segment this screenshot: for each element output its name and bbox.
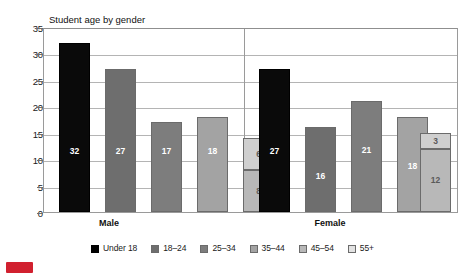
bar-value-female-under-18: 27 xyxy=(260,147,289,156)
legend-item-under-18[interactable]: Under 18 xyxy=(91,244,137,253)
y-axis: 35 30 25 20 15 10 5 0 xyxy=(0,0,43,271)
bar-female-45-54[interactable]: 12 xyxy=(420,149,451,212)
legend-swatch-icon xyxy=(348,245,356,253)
legend-item-45-54[interactable]: 45–54 xyxy=(299,244,334,253)
legend-swatch-icon xyxy=(200,245,208,253)
bar-value-male-18-24: 27 xyxy=(106,147,135,156)
legend-swatch-icon xyxy=(299,245,307,253)
bar-value-male-under-18: 32 xyxy=(60,147,89,156)
bar-value-female-25-34: 21 xyxy=(352,146,381,155)
bar-male-25-34[interactable]: 17 xyxy=(151,122,182,212)
bar-male-under-18[interactable]: 32 xyxy=(59,43,90,212)
bar-male-18-24[interactable]: 27 xyxy=(105,69,136,212)
bar-female-18-24[interactable]: 16 xyxy=(305,127,336,212)
legend-label: 18–24 xyxy=(163,244,186,253)
y-tick-mark xyxy=(37,213,43,214)
chart-legend: Under 18 18–24 25–34 35–44 45–54 55+ xyxy=(0,244,465,253)
legend-item-35-44[interactable]: 35–44 xyxy=(250,244,285,253)
bar-value-female-45-54: 12 xyxy=(421,176,450,185)
legend-label: 25–34 xyxy=(212,244,235,253)
legend-label: 45–54 xyxy=(311,244,334,253)
chart-title: Student age by gender xyxy=(49,14,145,25)
bar-value-female-55-plus: 3 xyxy=(421,137,450,146)
bar-female-25-34[interactable]: 21 xyxy=(351,101,382,212)
legend-swatch-icon xyxy=(250,245,258,253)
bar-female-under-18[interactable]: 27 xyxy=(259,69,290,212)
footer-badge xyxy=(6,262,33,273)
bar-value-male-35-44: 18 xyxy=(198,147,227,156)
legend-item-25-34[interactable]: 25–34 xyxy=(200,244,235,253)
bar-value-female-18-24: 16 xyxy=(306,172,335,181)
legend-swatch-icon xyxy=(91,245,99,253)
group-label-female: Female xyxy=(300,218,360,228)
bar-male-35-44[interactable]: 18 xyxy=(197,117,228,212)
gridline xyxy=(44,55,457,56)
legend-label: Under 18 xyxy=(103,244,137,253)
group-label-male: Male xyxy=(79,218,139,228)
legend-swatch-icon xyxy=(151,245,159,253)
legend-item-18-24[interactable]: 18–24 xyxy=(151,244,186,253)
plot-area: 32 27 17 18 8 6 27 16 21 xyxy=(43,28,458,213)
bar-female-55-plus[interactable]: 3 xyxy=(420,133,451,149)
bar-value-male-25-34: 17 xyxy=(152,147,181,156)
legend-label: 35–44 xyxy=(262,244,285,253)
legend-label: 55+ xyxy=(360,244,374,253)
legend-item-55-plus[interactable]: 55+ xyxy=(348,244,374,253)
